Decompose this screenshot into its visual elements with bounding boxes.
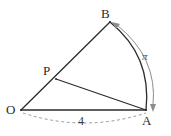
segment-OB xyxy=(21,22,110,110)
vertex-dot-O xyxy=(20,109,22,111)
point-label-A: A xyxy=(142,114,151,127)
arc-length-label: π xyxy=(142,51,148,62)
vertex-dot-A xyxy=(145,109,147,111)
point-label-O: O xyxy=(6,103,15,116)
segment-PA xyxy=(56,79,146,110)
point-label-B: B xyxy=(101,7,110,20)
vertex-dot-B xyxy=(109,21,111,23)
point-label-P: P xyxy=(43,64,50,77)
radius-measure-label: 4 xyxy=(78,115,84,127)
geometry-figure: B P O A π 4 xyxy=(0,0,171,136)
vertex-dot-P xyxy=(55,78,57,80)
radius-measure-dashed-arc xyxy=(23,113,146,123)
arrowhead-toward-A-icon xyxy=(150,104,156,112)
arc-length-indicator-arrow xyxy=(117,25,154,105)
